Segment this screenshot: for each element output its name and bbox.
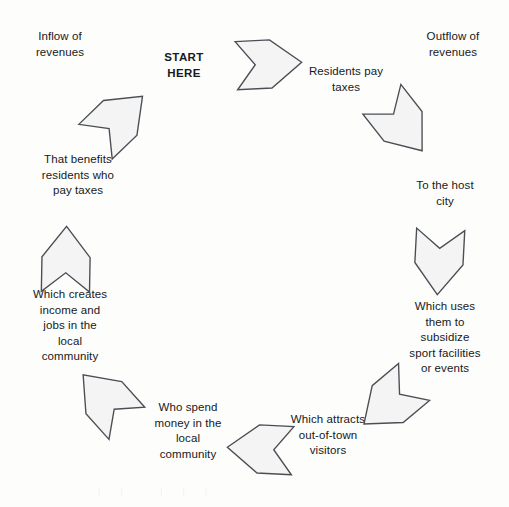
chevron-arrow-shape: [413, 228, 465, 296]
label-start-here: START HERE: [142, 49, 226, 81]
page-bleed-through: | | | | |: [98, 484, 210, 498]
chevron-arrow-shape: [65, 359, 145, 440]
arrow-left: [22, 215, 109, 302]
chevron-arrow-shape: [348, 364, 429, 443]
chevron-arrow-shape: [41, 226, 90, 292]
chevron-arrow-shape: [363, 84, 441, 165]
chevron-arrow-shape: [79, 79, 159, 159]
diagram-canvas: Inflow of revenues Outflow of revenues S…: [0, 0, 509, 507]
chevron-arrow-shape: [226, 423, 294, 475]
arrow-right: [394, 217, 484, 307]
arrow-top-center: [224, 19, 314, 109]
label-inflow-of-revenues: Inflow of revenues: [14, 29, 106, 60]
arrow-bottom-center: [215, 404, 305, 494]
chevron-arrow-shape: [235, 38, 303, 90]
step-label-to-the-host-city: To the host city: [404, 178, 486, 209]
label-outflow-of-revenues: Outflow of revenues: [404, 29, 502, 60]
